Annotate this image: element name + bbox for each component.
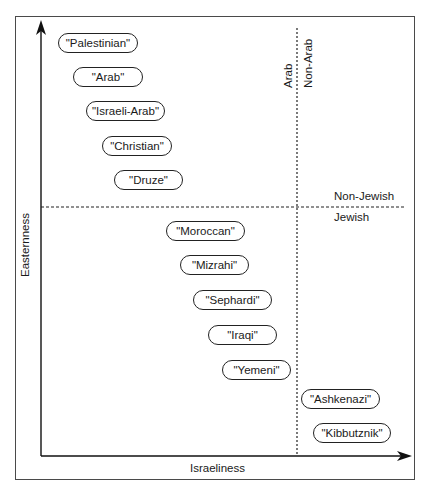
non-arab-label: Non-Arab: [302, 39, 314, 88]
pill-israeli-arab: "Israeli-Arab": [86, 101, 165, 121]
pill-iraqi: "Iraqi": [208, 325, 277, 345]
arab-label: Arab: [282, 64, 294, 88]
non-jewish-label: Non-Jewish: [334, 190, 394, 202]
jewish-label: Jewish: [334, 211, 369, 223]
y-axis-label: Easternness: [19, 213, 31, 277]
x-axis-label: Israeliness: [190, 462, 245, 474]
pill-druze: "Druze": [114, 170, 183, 190]
pill-arab: "Arab": [73, 67, 143, 87]
pill-yemeni: "Yemeni": [222, 360, 291, 380]
pill-christian: "Christian": [102, 136, 172, 156]
pill-ashkenazi: "Ashkenazi": [301, 389, 380, 409]
pill-palestinian: "Palestinian": [58, 33, 138, 53]
pill-moroccan: "Moroccan": [166, 221, 245, 241]
pill-kibbutznik: "Kibbutznik": [313, 423, 391, 443]
pill-mizrahi: "Mizrahi": [180, 255, 249, 275]
pill-sephardi: "Sephardi": [193, 290, 272, 310]
